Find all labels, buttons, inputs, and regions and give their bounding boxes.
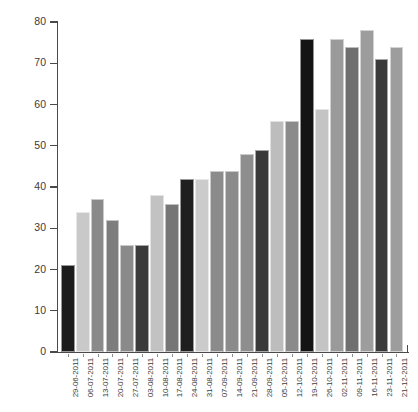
x-axis-tick <box>98 354 99 357</box>
x-axis-label: 31-08-2011 <box>205 358 214 397</box>
x-axis-tick <box>367 354 368 357</box>
bar <box>91 199 105 352</box>
bar <box>300 39 314 353</box>
bar <box>375 59 389 352</box>
y-axis-tick <box>50 269 58 270</box>
y-axis-tick <box>50 104 58 105</box>
x-axis-label: 26-10-2011 <box>325 358 334 397</box>
x-axis-tick <box>247 354 248 357</box>
x-axis-tick <box>382 354 383 357</box>
bar <box>180 179 194 352</box>
y-axis-tick <box>50 63 58 64</box>
x-axis-label: 09-11-2011 <box>355 358 364 397</box>
y-axis-tick-label: 70 <box>6 57 46 68</box>
x-axis-tick <box>217 354 218 357</box>
bar <box>120 245 134 352</box>
x-axis-label: 23-11-2011 <box>385 358 394 397</box>
chart-title <box>110 0 310 8</box>
y-axis-tick-label: 0 <box>6 346 46 357</box>
bar <box>345 47 359 352</box>
x-axis-label: 03-08-2011 <box>146 358 155 397</box>
y-axis-tick <box>50 21 58 22</box>
x-axis-tick <box>68 354 69 357</box>
x-axis-label: 02-11-2011 <box>340 358 349 397</box>
bar <box>330 39 344 353</box>
x-axis-tick <box>322 354 323 357</box>
x-axis-label: 13-07-2011 <box>101 358 110 397</box>
bar <box>150 195 164 352</box>
bar <box>240 154 254 352</box>
x-axis-label: 05-10-2011 <box>280 358 289 397</box>
y-axis-tick-label: 40 <box>6 181 46 192</box>
x-axis-tick <box>232 354 233 357</box>
bar <box>255 150 269 352</box>
x-axis-tick <box>112 354 113 357</box>
x-axis-label: 14-09-2011 <box>235 358 244 397</box>
x-axis-label: 10-08-2011 <box>161 358 170 397</box>
y-axis-tick <box>50 186 58 187</box>
x-axis-tick <box>262 354 263 357</box>
x-axis-label: 29-06-2011 <box>71 358 80 397</box>
x-axis-tick <box>202 354 203 357</box>
x-axis-tick <box>172 354 173 357</box>
bar <box>195 179 209 352</box>
bar <box>225 171 239 353</box>
x-axis-label: 07-09-2011 <box>220 358 229 397</box>
x-axis-tick <box>157 354 158 357</box>
x-axis-label: 21-09-2011 <box>250 358 259 397</box>
x-axis-label: 16-11-2011 <box>370 358 379 397</box>
bar <box>61 265 75 352</box>
bar <box>390 47 404 352</box>
y-axis-tick <box>50 351 58 352</box>
x-axis-label: 17-08-2011 <box>175 358 184 397</box>
bar <box>76 212 90 352</box>
y-axis-tick-label: 10 <box>6 305 46 316</box>
plot-area <box>58 22 410 352</box>
y-axis-tick-label: 20 <box>6 264 46 275</box>
y-axis-tick-label: 50 <box>6 140 46 151</box>
y-axis-tick <box>50 310 58 311</box>
x-axis-tick <box>277 354 278 357</box>
bar-chart-figure: 01020304050607080 29-06-201106-07-201113… <box>0 0 418 412</box>
x-axis-label: 21-12-2011 <box>400 358 409 397</box>
bar <box>270 121 284 352</box>
y-axis-tick <box>50 228 58 229</box>
bar <box>106 220 120 352</box>
x-axis-label: 19-10-2011 <box>310 358 319 397</box>
bar <box>135 245 149 352</box>
x-axis-tick <box>352 354 353 357</box>
x-axis-tick <box>337 354 338 357</box>
x-axis-label: 12-10-2011 <box>295 358 304 397</box>
x-axis-tick <box>83 354 84 357</box>
x-axis-label: 20-07-2011 <box>116 358 125 397</box>
bar <box>315 109 329 352</box>
y-axis-tick-label: 80 <box>6 16 46 27</box>
bar <box>360 30 374 352</box>
x-axis-label: 27-07-2011 <box>131 358 140 397</box>
x-axis-tick <box>292 354 293 357</box>
x-axis-tick <box>142 354 143 357</box>
bar <box>285 121 299 352</box>
x-axis-label: 28-09-2011 <box>265 358 274 397</box>
x-axis-label: 06-07-2011 <box>86 358 95 397</box>
x-axis-tick <box>307 354 308 357</box>
y-axis-tick-label: 30 <box>6 222 46 233</box>
x-axis-label: 24-08-2011 <box>190 358 199 397</box>
y-axis-tick <box>50 145 58 146</box>
bar <box>210 171 224 353</box>
bar <box>165 204 179 353</box>
y-axis-tick-label: 60 <box>6 99 46 110</box>
x-axis-tick <box>396 354 397 357</box>
x-axis-tick <box>187 354 188 357</box>
x-axis-tick <box>127 354 128 357</box>
